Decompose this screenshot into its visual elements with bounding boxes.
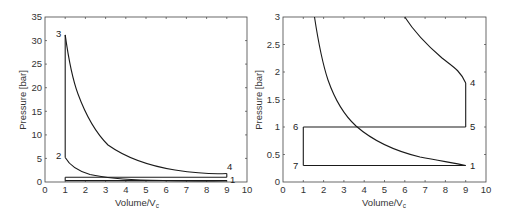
tick-label: 30	[31, 35, 42, 46]
tick-label: 1.5	[267, 94, 280, 105]
left-x-axis-label: Volume/Vc	[115, 197, 160, 209]
right-x-axis-label: Volume/Vc	[362, 197, 407, 209]
tick-label: 2	[275, 66, 280, 77]
right-x-tick-labels: 0 1 2 3 4 5 6 7 8 9 10	[280, 184, 491, 195]
tick-label: 9	[463, 184, 468, 195]
right-plot-area	[283, 17, 486, 182]
tick-label: 0	[37, 176, 42, 187]
point-label-3: 3	[56, 28, 61, 39]
point-label-7: 7	[293, 160, 298, 171]
right-cycle-curves	[303, 17, 465, 166]
point-label-1: 1	[230, 174, 235, 185]
left-y-ticks	[45, 41, 247, 159]
tick-label: 10	[242, 184, 253, 195]
tick-label: 4	[123, 184, 128, 195]
tick-label: 0	[275, 176, 280, 187]
right-chart: 0 1 2 3 4 5 6 7 8 9 10 0 0.5 1 1.5 2 2.5…	[253, 11, 491, 209]
expansion-curve	[65, 35, 227, 174]
tick-label: 15	[31, 106, 42, 117]
tick-label: 5	[143, 184, 148, 195]
left-cycle-curves	[65, 35, 227, 181]
tick-label: 2	[83, 184, 88, 195]
point-label-4: 4	[470, 77, 475, 88]
tick-label: 10	[31, 129, 42, 140]
expansion-curve	[405, 17, 466, 83]
figure: 0 1 2 3 4 5 6 7 8 9 10 0 5 10 15 20 25 3…	[0, 0, 512, 217]
point-label-4: 4	[227, 161, 232, 172]
left-x-tick-labels: 0 1 2 3 4 5 6 7 8 9 10	[42, 184, 252, 195]
left-y-axis-label: Pressure [bar]	[17, 70, 28, 130]
tick-label: 5	[382, 184, 387, 195]
tick-label: 10	[481, 184, 492, 195]
left-chart: 0 1 2 3 4 5 6 7 8 9 10 0 5 10 15 20 25 3…	[17, 11, 252, 209]
tick-label: 3	[103, 184, 108, 195]
tick-label: 0	[280, 184, 285, 195]
compression-curve	[315, 17, 466, 166]
tick-label: 2.5	[267, 39, 280, 50]
point-label-2: 2	[56, 150, 61, 161]
tick-label: 3	[275, 11, 280, 22]
tick-label: 1	[275, 121, 280, 132]
tick-label: 8	[204, 184, 209, 195]
right-y-tick-labels: 0 0.5 1 1.5 2 2.5 3	[267, 11, 280, 187]
tick-label: 0.5	[267, 149, 280, 160]
tick-label: 6	[402, 184, 407, 195]
tick-label: 4	[362, 184, 367, 195]
left-plot-area	[45, 17, 247, 182]
left-y-tick-labels: 0 5 10 15 20 25 30 35	[31, 11, 42, 187]
right-y-axis-label: Pressure [bar]	[253, 70, 264, 130]
tick-label: 7	[422, 184, 427, 195]
tick-label: 8	[443, 184, 448, 195]
tick-label: 20	[31, 82, 42, 93]
right-y-ticks	[283, 45, 486, 155]
tick-label: 1	[63, 184, 68, 195]
point-label-6: 6	[293, 121, 298, 132]
point-label-5: 5	[470, 121, 475, 132]
right-x-ticks	[303, 17, 465, 182]
point-label-1: 1	[470, 160, 475, 171]
tick-label: 9	[224, 184, 229, 195]
left-x-ticks	[65, 17, 227, 182]
tick-label: 6	[164, 184, 169, 195]
tick-label: 25	[31, 58, 42, 69]
tick-label: 3	[341, 184, 346, 195]
tick-label: 7	[184, 184, 189, 195]
tick-label: 2	[321, 184, 326, 195]
tick-label: 5	[37, 153, 42, 164]
tick-label: 35	[31, 11, 42, 22]
tick-label: 1	[301, 184, 306, 195]
tick-label: 0	[42, 184, 47, 195]
